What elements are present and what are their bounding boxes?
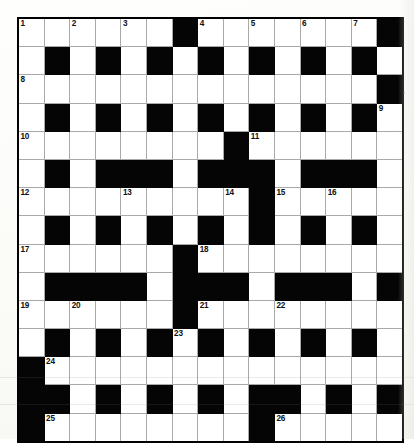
crossword-letter-cell[interactable]: [146, 272, 172, 300]
crossword-letter-cell[interactable]: [70, 329, 96, 357]
crossword-letter-cell[interactable]: [44, 188, 70, 216]
crossword-letter-cell[interactable]: [326, 131, 352, 159]
crossword-letter-cell[interactable]: [377, 131, 403, 159]
crossword-letter-cell[interactable]: [274, 18, 300, 47]
crossword-letter-cell[interactable]: [326, 75, 352, 103]
crossword-letter-cell[interactable]: [121, 329, 147, 357]
crossword-letter-cell[interactable]: 9: [377, 103, 403, 131]
crossword-letter-cell[interactable]: [249, 300, 275, 328]
crossword-letter-cell[interactable]: [198, 131, 224, 159]
crossword-letter-cell[interactable]: 22: [274, 300, 300, 328]
crossword-letter-cell[interactable]: [300, 75, 326, 103]
crossword-letter-cell[interactable]: 4: [198, 18, 224, 47]
crossword-letter-cell[interactable]: 10: [18, 131, 44, 159]
crossword-letter-cell[interactable]: 2: [70, 18, 96, 47]
crossword-letter-cell[interactable]: [146, 188, 172, 216]
crossword-letter-cell[interactable]: [70, 75, 96, 103]
crossword-letter-cell[interactable]: [95, 300, 121, 328]
crossword-letter-cell[interactable]: [198, 75, 224, 103]
crossword-letter-cell[interactable]: [377, 244, 403, 272]
crossword-letter-cell[interactable]: [146, 131, 172, 159]
crossword-letter-cell[interactable]: [146, 244, 172, 272]
crossword-letter-cell[interactable]: [223, 18, 249, 47]
crossword-letter-cell[interactable]: [18, 47, 44, 75]
crossword-letter-cell[interactable]: [351, 244, 377, 272]
crossword-letter-cell[interactable]: [326, 47, 352, 75]
crossword-letter-cell[interactable]: [95, 244, 121, 272]
crossword-letter-cell[interactable]: [70, 216, 96, 244]
crossword-letter-cell[interactable]: [300, 131, 326, 159]
crossword-letter-cell[interactable]: [300, 385, 326, 413]
crossword-letter-cell[interactable]: [121, 385, 147, 413]
crossword-letter-cell[interactable]: [18, 272, 44, 300]
crossword-letter-cell[interactable]: [70, 244, 96, 272]
crossword-letter-cell[interactable]: [300, 300, 326, 328]
crossword-letter-cell[interactable]: [146, 18, 172, 47]
crossword-letter-cell[interactable]: 15: [274, 188, 300, 216]
crossword-letter-cell[interactable]: [223, 329, 249, 357]
crossword-letter-cell[interactable]: [70, 131, 96, 159]
crossword-letter-cell[interactable]: [351, 131, 377, 159]
crossword-letter-cell[interactable]: [121, 103, 147, 131]
crossword-letter-cell[interactable]: [223, 47, 249, 75]
crossword-letter-cell[interactable]: [326, 357, 352, 385]
crossword-letter-cell[interactable]: [351, 385, 377, 413]
crossword-letter-cell[interactable]: [351, 300, 377, 328]
crossword-letter-cell[interactable]: [70, 159, 96, 187]
crossword-letter-cell[interactable]: [223, 103, 249, 131]
crossword-letter-cell[interactable]: [146, 357, 172, 385]
crossword-letter-cell[interactable]: [121, 300, 147, 328]
crossword-letter-cell[interactable]: [351, 272, 377, 300]
crossword-letter-cell[interactable]: [326, 216, 352, 244]
crossword-letter-cell[interactable]: [70, 413, 96, 442]
crossword-letter-cell[interactable]: 20: [70, 300, 96, 328]
crossword-letter-cell[interactable]: [274, 47, 300, 75]
crossword-letter-cell[interactable]: [172, 131, 198, 159]
crossword-letter-cell[interactable]: [70, 357, 96, 385]
crossword-letter-cell[interactable]: [121, 47, 147, 75]
crossword-letter-cell[interactable]: [351, 75, 377, 103]
crossword-letter-cell[interactable]: [377, 357, 403, 385]
crossword-letter-cell[interactable]: 19: [18, 300, 44, 328]
crossword-letter-cell[interactable]: [223, 244, 249, 272]
crossword-letter-cell[interactable]: [121, 357, 147, 385]
crossword-letter-cell[interactable]: [95, 18, 121, 47]
crossword-letter-cell[interactable]: [95, 75, 121, 103]
crossword-letter-cell[interactable]: [121, 216, 147, 244]
crossword-letter-cell[interactable]: [121, 244, 147, 272]
crossword-letter-cell[interactable]: [326, 300, 352, 328]
crossword-letter-cell[interactable]: [274, 329, 300, 357]
crossword-letter-cell[interactable]: [44, 18, 70, 47]
crossword-letter-cell[interactable]: [172, 216, 198, 244]
crossword-letter-cell[interactable]: [146, 300, 172, 328]
crossword-letter-cell[interactable]: 1: [18, 18, 44, 47]
crossword-letter-cell[interactable]: [172, 188, 198, 216]
crossword-letter-cell[interactable]: 12: [18, 188, 44, 216]
crossword-letter-cell[interactable]: [172, 103, 198, 131]
crossword-letter-cell[interactable]: [70, 385, 96, 413]
crossword-letter-cell[interactable]: [274, 131, 300, 159]
crossword-letter-cell[interactable]: 26: [274, 413, 300, 442]
crossword-letter-cell[interactable]: 11: [249, 131, 275, 159]
crossword-letter-cell[interactable]: [274, 103, 300, 131]
crossword-letter-cell[interactable]: [223, 216, 249, 244]
crossword-letter-cell[interactable]: [44, 300, 70, 328]
crossword-letter-cell[interactable]: [18, 159, 44, 187]
crossword-letter-cell[interactable]: [198, 188, 224, 216]
crossword-letter-cell[interactable]: [44, 244, 70, 272]
crossword-letter-cell[interactable]: [44, 75, 70, 103]
crossword-letter-cell[interactable]: [70, 103, 96, 131]
crossword-letter-cell[interactable]: [377, 413, 403, 442]
crossword-letter-cell[interactable]: [18, 216, 44, 244]
crossword-letter-cell[interactable]: [249, 357, 275, 385]
crossword-letter-cell[interactable]: [223, 357, 249, 385]
crossword-letter-cell[interactable]: [377, 329, 403, 357]
crossword-letter-cell[interactable]: [351, 357, 377, 385]
crossword-letter-cell[interactable]: [223, 413, 249, 442]
crossword-letter-cell[interactable]: [121, 131, 147, 159]
crossword-letter-cell[interactable]: [198, 413, 224, 442]
crossword-letter-cell[interactable]: [326, 329, 352, 357]
crossword-letter-cell[interactable]: [377, 300, 403, 328]
crossword-letter-cell[interactable]: [274, 75, 300, 103]
crossword-letter-cell[interactable]: [223, 300, 249, 328]
